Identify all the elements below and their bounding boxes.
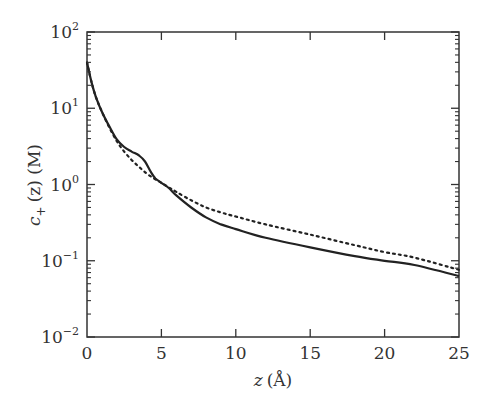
solid-line — [87, 62, 459, 276]
x-axis-label: z(Å) — [253, 370, 293, 390]
y-tick-label: 100 — [50, 173, 79, 195]
y-tick-label: 10−2 — [41, 325, 79, 347]
x-tick-label: 25 — [448, 343, 470, 363]
x-tick-label: 10 — [225, 343, 247, 363]
x-axis-ticks: 0510152025 — [82, 32, 470, 363]
y-axis-ticks: 10210110010−110−2 — [41, 20, 459, 347]
x-tick-label: 20 — [374, 343, 396, 363]
x-tick-label: 0 — [82, 343, 93, 363]
plot-frame — [87, 32, 459, 337]
chart: 10210110010−110−2 0510152025 z(Å) c+(z) … — [0, 0, 493, 402]
y-tick-label: 101 — [50, 96, 79, 118]
x-tick-label: 15 — [299, 343, 321, 363]
y-tick-label: 102 — [50, 20, 79, 42]
x-tick-label: 5 — [156, 343, 167, 363]
y-tick-label: 10−1 — [41, 249, 79, 271]
data-series — [87, 62, 459, 276]
y-axis-label: c+(z) (M) — [24, 144, 48, 226]
